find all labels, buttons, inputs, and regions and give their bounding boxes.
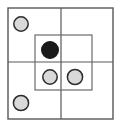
circle-bottom-left-outer <box>13 95 28 110</box>
circle-inner-lower-right <box>67 69 82 84</box>
circle-top-left-outer <box>14 17 28 31</box>
circle-center-dark <box>42 42 59 59</box>
figure-root <box>0 0 120 126</box>
circle-inner-lower-left <box>43 70 57 84</box>
diagram-canvas <box>0 0 120 126</box>
